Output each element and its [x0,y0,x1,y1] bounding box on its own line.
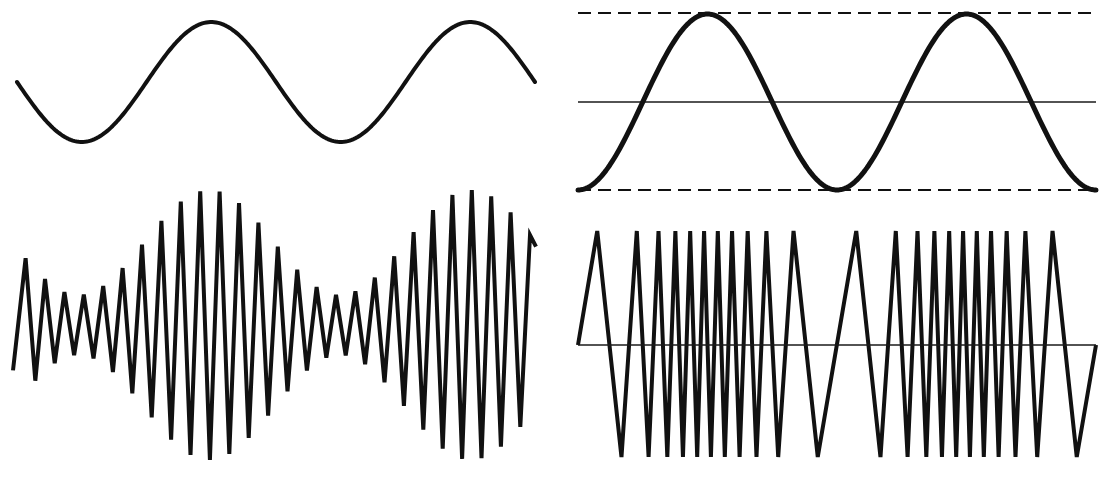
am-modulating-signal-plot [0,0,560,180]
am-modulated-carrier-plot [0,180,560,480]
sine-wave-am-modulating [17,22,535,142]
modulation-figure [0,0,1101,480]
panel-fm-modulating-signal [560,0,1101,215]
fm-modulating-signal-plot [560,0,1101,215]
triangular-carrier-amplitude-modulated [13,190,536,460]
panel-am-modulated-carrier [0,180,560,480]
fm-modulated-carrier-plot [560,215,1101,480]
panel-am-modulating-signal [0,0,560,180]
panel-fm-modulated-carrier [560,215,1101,480]
triangular-carrier-frequency-modulated [578,231,1096,457]
